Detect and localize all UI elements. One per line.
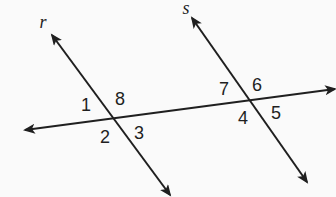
angle-label-5: 5 [271,103,281,123]
angle-label-6: 6 [252,75,262,95]
angle-label-8: 8 [115,89,125,109]
line-r [52,35,170,195]
angle-label-7: 7 [219,79,229,99]
line-r-label: r [39,12,47,32]
angle-label-3: 3 [134,123,144,143]
angle-label-1: 1 [81,95,91,115]
angle-label-4: 4 [238,108,248,128]
angle-label-2: 2 [100,127,110,147]
diagram-canvas: rs18237645 [0,0,336,197]
transversal-line [25,89,335,130]
geometry-diagram: rs18237645 [0,0,336,197]
line-s-label: s [182,0,189,18]
